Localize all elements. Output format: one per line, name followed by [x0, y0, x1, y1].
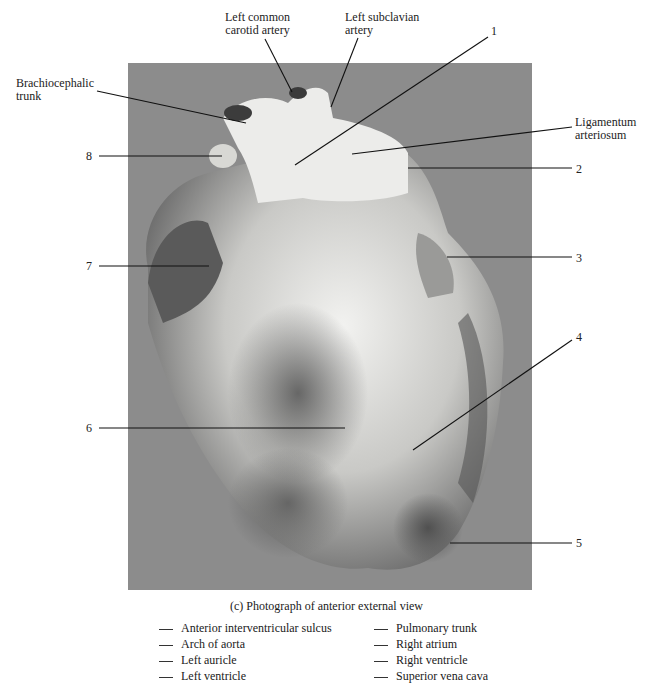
answer-term: Arch of aorta: [181, 637, 245, 651]
answer-key-item[interactable]: Right atrium: [374, 636, 488, 652]
answer-term: Anterior interventricular sulcus: [181, 621, 332, 635]
label-line: carotid artery: [225, 24, 290, 37]
answer-term: Superior vena cava: [396, 669, 488, 683]
answer-term: Left auricle: [181, 653, 237, 667]
callout-number-8: 8: [86, 150, 92, 162]
callout-number-5: 5: [576, 537, 582, 549]
answer-key-right-column: Pulmonary trunk Right atrium Right ventr…: [374, 620, 488, 684]
answer-key-item[interactable]: Left auricle: [159, 652, 332, 668]
label-line: arteriosum: [575, 129, 636, 142]
answer-term: Right atrium: [396, 637, 457, 651]
callout-number-7: 7: [86, 260, 92, 272]
figure-caption: (c) Photograph of anterior external view: [0, 599, 653, 614]
answer-key-item[interactable]: Arch of aorta: [159, 636, 332, 652]
answer-blank[interactable]: [159, 645, 173, 646]
answer-key-left-column: Anterior interventricular sulcus Arch of…: [159, 620, 332, 684]
label-left-common-carotid-artery: Left common carotid artery: [225, 11, 290, 37]
answer-key-item[interactable]: Right ventricle: [374, 652, 488, 668]
answer-key-item[interactable]: Superior vena cava: [374, 668, 488, 684]
callout-number-2: 2: [576, 163, 582, 175]
callout-number-4: 4: [576, 331, 582, 343]
label-line: trunk: [16, 90, 94, 103]
leader-lines: [0, 0, 653, 696]
answer-blank[interactable]: [374, 629, 388, 630]
label-left-subclavian-artery: Left subclavian artery: [345, 11, 419, 37]
answer-blank[interactable]: [159, 629, 173, 630]
answer-blank[interactable]: [159, 677, 173, 678]
answer-key-item[interactable]: Pulmonary trunk: [374, 620, 488, 636]
answer-blank[interactable]: [374, 661, 388, 662]
cropped-text-line: [0, 688, 653, 696]
answer-key-item[interactable]: Anterior interventricular sulcus: [159, 620, 332, 636]
label-brachiocephalic-trunk: Brachiocephalic trunk: [16, 77, 94, 103]
answer-term: Pulmonary trunk: [396, 621, 477, 635]
answer-key-item[interactable]: Left ventricle: [159, 668, 332, 684]
answer-blank[interactable]: [374, 677, 388, 678]
callout-number-3: 3: [576, 252, 582, 264]
answer-term: Right ventricle: [396, 653, 468, 667]
label-ligamentum-arteriosum: Ligamentum arteriosum: [575, 116, 636, 142]
answer-blank[interactable]: [374, 645, 388, 646]
label-line: artery: [345, 24, 419, 37]
callout-number-6: 6: [86, 422, 92, 434]
answer-blank[interactable]: [159, 661, 173, 662]
callout-number-1: 1: [491, 25, 497, 37]
answer-term: Left ventricle: [181, 669, 246, 683]
